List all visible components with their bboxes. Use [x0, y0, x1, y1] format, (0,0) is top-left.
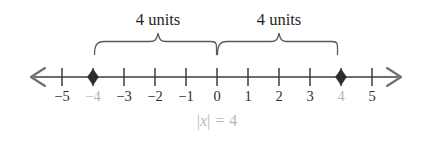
tick-label-4: 4 — [337, 88, 345, 104]
brace-label-left: 4 units — [136, 10, 180, 29]
tick-label-minus-1: −1 — [178, 88, 193, 104]
number-line-canvas: 4 units 4 units −5 −4 −3 −2 −1 0 1 — [0, 0, 432, 142]
equation-bar-close: | — [207, 112, 210, 130]
equation-value: 4 — [229, 112, 237, 129]
brace-left — [95, 34, 217, 55]
number-line-figure: 4 units 4 units −5 −4 −3 −2 −1 0 1 — [0, 0, 432, 142]
tick-label-3: 3 — [306, 88, 313, 104]
tick-label-1: 1 — [244, 88, 251, 104]
tick-label-minus-3: −3 — [116, 88, 131, 104]
tick-label-minus-2: −2 — [147, 88, 162, 104]
solution-point-marker-minus-4 — [88, 69, 99, 85]
equation-absolute-value: |x|=4 — [197, 112, 238, 130]
brace-label-right: 4 units — [257, 10, 301, 29]
tick-label-2: 2 — [275, 88, 282, 104]
solution-point-marker-plus-4 — [336, 69, 347, 85]
brace-right — [218, 34, 338, 55]
equation-variable: x — [199, 112, 207, 129]
equation-relation: = — [215, 112, 224, 129]
tick-label-5: 5 — [368, 88, 375, 104]
tick-label-minus-4: −4 — [85, 88, 101, 104]
tick-label-0: 0 — [213, 88, 220, 104]
tick-label-minus-5: −5 — [54, 88, 69, 104]
